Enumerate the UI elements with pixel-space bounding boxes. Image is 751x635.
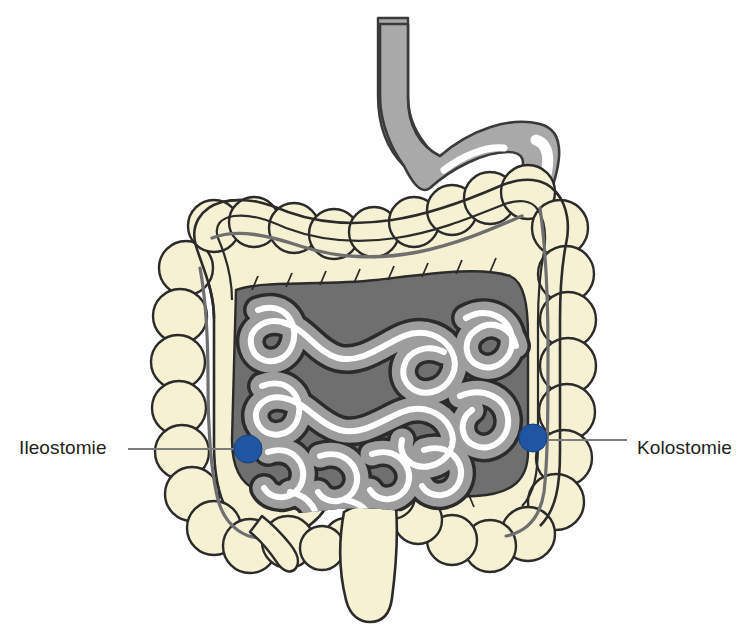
ileostomy-site-marker[interactable] — [234, 435, 262, 463]
anatomical-diagram: Ileostomie Kolostomie — [0, 0, 751, 635]
rectum — [340, 503, 396, 622]
label-kolostomie: Kolostomie — [637, 438, 732, 457]
colostomy-site-marker[interactable] — [519, 424, 547, 452]
digestive-system-illustration — [0, 0, 751, 635]
label-ileostomie: Ileostomie — [19, 438, 107, 457]
